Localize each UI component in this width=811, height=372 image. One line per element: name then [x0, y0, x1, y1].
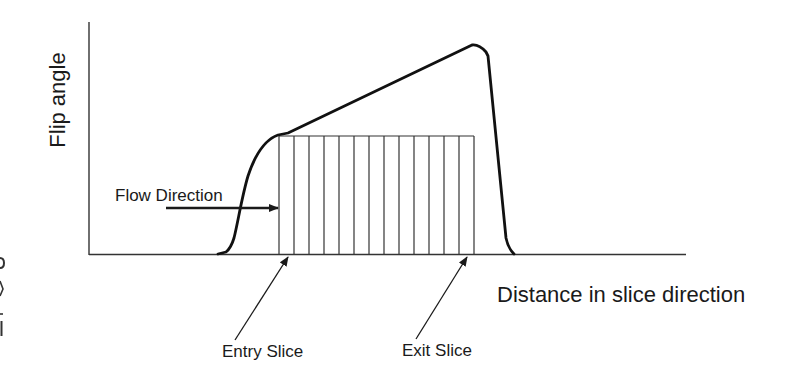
exit-slice-label: Exit Slice [402, 341, 472, 360]
flip-angle-curve [218, 45, 514, 254]
entry-slice-label: Entry Slice [222, 342, 303, 361]
entry-slice-arrow [235, 257, 288, 340]
flow-direction-label: Flow Direction [115, 186, 223, 205]
y-axis-label: Flip angle [45, 52, 70, 147]
x-axis-label: Distance in slice direction [497, 282, 745, 307]
exit-slice-arrow [416, 257, 467, 339]
flip-angle-diagram: Flip angle Distance in slice direction F… [0, 0, 811, 372]
clipped-edge-text [0, 258, 4, 336]
slice-slab [279, 136, 474, 254]
